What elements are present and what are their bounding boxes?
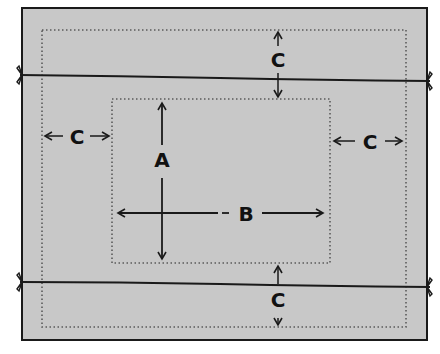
label-a: A xyxy=(154,148,170,172)
label-c-bottom: C xyxy=(271,288,286,312)
diagram-canvas: A B C C C C xyxy=(0,0,440,354)
label-c-top: C xyxy=(271,48,286,72)
label-c-left: C xyxy=(70,125,85,149)
label-b: B xyxy=(238,202,253,226)
fabric-panel xyxy=(22,8,427,340)
label-c-right: C xyxy=(363,130,378,154)
